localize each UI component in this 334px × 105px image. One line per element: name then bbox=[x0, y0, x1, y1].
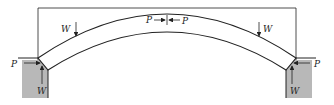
w-right-reaction-label: W bbox=[290, 86, 300, 96]
arch-diagram: W W P P P P W W bbox=[0, 0, 334, 105]
p-right-support-label: P bbox=[313, 59, 321, 69]
w-left-load-label: W bbox=[61, 24, 71, 34]
w-right-load-label: W bbox=[263, 24, 273, 34]
w-left-reaction-label: W bbox=[37, 86, 47, 96]
p-left-support-label: P bbox=[10, 59, 18, 69]
p-crown-left-label: P bbox=[145, 15, 153, 25]
p-crown-right-label: P bbox=[181, 16, 189, 26]
